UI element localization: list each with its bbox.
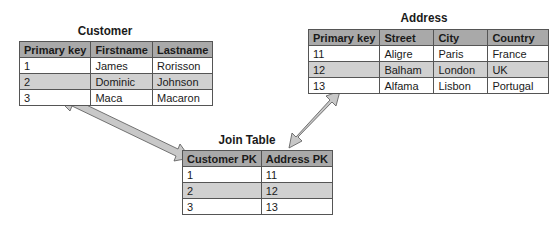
table-header-row: Primary key Firstname Lastname [20,42,213,58]
table-header-row: Customer PK Address PK [183,151,333,167]
table-cell: 1 [20,58,91,74]
table-cell: 13 [309,78,380,94]
column-header: Address PK [261,151,332,167]
table-cell: Rorisson [152,58,212,74]
table-cell: 1 [183,167,262,183]
column-header: Primary key [20,42,91,58]
column-header: Lastname [152,42,212,58]
table-cell: Dominic [91,74,153,90]
table-cell: Macaron [152,90,212,106]
table-row: 11 Aligre Paris France [309,46,549,62]
table-cell: 3 [183,199,262,215]
table-row: 2 Dominic Johnson [20,74,213,90]
customer-table-title: Customer [28,23,183,38]
table-row: 3 13 [183,199,333,215]
table-cell: Maca [91,90,153,106]
table-row: 1 11 [183,167,333,183]
column-header: Firstname [91,42,153,58]
table-row: 1 James Rorisson [20,58,213,74]
table-cell: Portugal [488,78,549,94]
join-table: Customer PK Address PK 1 11 2 12 3 13 [182,150,333,215]
table-cell: France [488,46,549,62]
column-header: Country [488,30,549,46]
table-cell: 12 [309,62,380,78]
table-cell: 13 [261,199,332,215]
table-row: 12 Balham London UK [309,62,549,78]
column-header: Customer PK [183,151,262,167]
table-row: 2 12 [183,183,333,199]
join-table-title: Join Table [189,132,306,147]
table-cell: UK [488,62,549,78]
table-cell: 11 [309,46,380,62]
table-cell: 3 [20,90,91,106]
table-cell: Balham [380,62,434,78]
table-cell: 2 [20,74,91,90]
table-cell: James [91,58,153,74]
table-cell: 11 [261,167,332,183]
table-cell: 12 [261,183,332,199]
table-row: 3 Maca Macaron [20,90,213,106]
table-cell: Johnson [152,74,212,90]
column-header: Street [380,30,434,46]
address-table: Primary key Street City Country 11 Aligr… [308,29,549,94]
table-cell: Aligre [380,46,434,62]
column-header: City [434,30,488,46]
customer-table: Primary key Firstname Lastname 1 James R… [19,41,213,106]
address-table-title: Address [320,10,529,25]
table-cell: 2 [183,183,262,199]
table-cell: Alfama [380,78,434,94]
table-header-row: Primary key Street City Country [309,30,549,46]
table-cell: Paris [434,46,488,62]
table-cell: London [434,62,488,78]
column-header: Primary key [309,30,380,46]
table-row: 13 Alfama Lisbon Portugal [309,78,549,94]
table-cell: Lisbon [434,78,488,94]
